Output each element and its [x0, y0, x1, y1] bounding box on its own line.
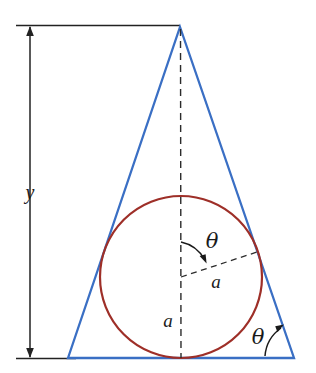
figure-container: y θ a a θ: [0, 0, 316, 373]
height-label-y: y: [24, 181, 35, 204]
center-angle-theta-group: [181, 242, 207, 263]
center-angle-arrowhead: [200, 254, 207, 263]
height-dimension-group: [16, 26, 180, 359]
base-angle-label-theta: θ: [252, 325, 265, 349]
base-angle-theta-group: [265, 325, 284, 357]
dimension-arrowhead-down: [26, 348, 34, 358]
inradius-label-a: a: [163, 310, 173, 331]
geometry-diagram: y θ a a θ: [0, 0, 316, 373]
construction-lines-group: [181, 29, 258, 358]
axis-of-symmetry-dashed-line: [181, 29, 182, 358]
center-angle-label-theta: θ: [206, 229, 219, 253]
radius-label-a: a: [211, 271, 221, 292]
base-angle-arc: [265, 328, 281, 356]
dimension-arrowhead-up: [26, 26, 34, 36]
